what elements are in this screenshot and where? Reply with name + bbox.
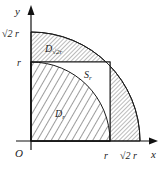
x-axis-arrow-icon	[149, 138, 158, 145]
y-tick-r: r	[17, 57, 21, 68]
diagram-figure: y x O √2 r r r √2 r D√2r Sr Dr	[0, 0, 162, 174]
x-tick-r: r	[104, 150, 108, 161]
x-axis-label: x	[150, 148, 156, 160]
y-axis-arrow-icon	[28, 5, 35, 15]
origin-label: O	[15, 147, 23, 159]
y-axis-label: y	[14, 5, 20, 17]
x-tick-sqrt2r: √2 r	[120, 150, 137, 161]
y-tick-sqrt2r: √2 r	[2, 28, 19, 39]
